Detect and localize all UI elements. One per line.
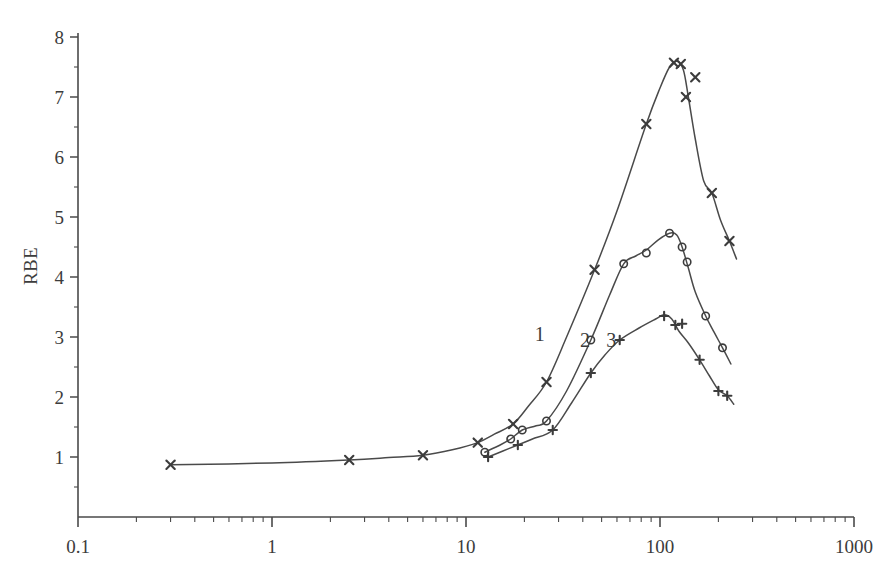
x-tick-label-1000: 1000 — [835, 537, 873, 556]
y-axis-title: RBE — [20, 247, 42, 285]
markers-group — [166, 59, 733, 469]
axes-group — [70, 33, 854, 527]
y-tick-label-4: 4 — [55, 268, 65, 287]
data-point-x-marker — [542, 378, 550, 386]
data-point-x-marker — [691, 73, 699, 81]
data-point-x-marker — [725, 237, 733, 245]
curve-label-3: 3 — [606, 330, 616, 350]
data-point-plus-marker — [695, 356, 703, 364]
data-point-x-marker — [677, 60, 685, 68]
y-tick-label-1: 1 — [55, 448, 65, 467]
data-point-x-marker — [642, 120, 650, 128]
x-tick-label-10: 10 — [457, 537, 476, 556]
curve-line-series-1 — [171, 61, 737, 465]
y-tick-label-7: 7 — [55, 88, 65, 107]
data-point-plus-marker — [660, 312, 668, 320]
data-point-x-marker — [708, 189, 716, 197]
data-point-plus-marker — [678, 320, 686, 328]
data-point-plus-marker — [514, 441, 522, 449]
data-point-plus-marker — [671, 321, 679, 329]
y-tick-label-5: 5 — [55, 208, 65, 227]
curve-label-2: 2 — [580, 330, 590, 350]
data-point-plus-marker — [484, 453, 492, 461]
data-point-x-marker — [474, 438, 482, 446]
y-tick-label-3: 3 — [55, 328, 65, 347]
data-point-x-marker — [509, 420, 517, 428]
y-tick-label-2: 2 — [55, 388, 65, 407]
y-tick-label-6: 6 — [55, 148, 65, 167]
curve-label-1: 1 — [535, 324, 545, 344]
data-point-plus-marker — [714, 387, 722, 395]
x-tick-label-0.1: 0.1 — [66, 537, 90, 556]
x-tick-label-100: 100 — [646, 537, 675, 556]
data-point-x-marker — [590, 266, 598, 274]
x-tick-label-1: 1 — [267, 537, 277, 556]
y-tick-label-8: 8 — [55, 28, 65, 47]
curves-group — [171, 61, 737, 465]
